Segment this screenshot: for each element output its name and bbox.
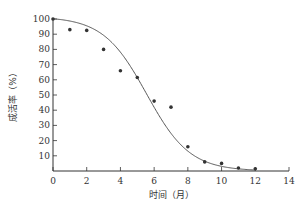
y-tick-label: 60 (39, 75, 51, 85)
x-axis-title: 时间（月） (149, 189, 194, 200)
y-tick-label: 50 (39, 90, 51, 100)
data-point (237, 166, 241, 170)
data-points (51, 17, 257, 170)
data-point (220, 162, 224, 166)
data-point (152, 99, 156, 103)
data-point (135, 76, 139, 80)
x-tick-label: 0 (50, 176, 56, 186)
data-point (186, 145, 190, 149)
x-tick-label: 8 (185, 176, 191, 186)
x-tick-label: 12 (250, 176, 261, 186)
x-tick-label: 2 (84, 176, 90, 186)
survival-rate-chart: 102030405060708090100 02468101214 时间（月） … (0, 0, 308, 205)
data-point (119, 69, 123, 73)
y-tick-label: 100 (33, 14, 50, 24)
y-axis-title: 成活率（%） (7, 68, 18, 122)
data-point (51, 17, 55, 21)
x-tick-label: 10 (216, 176, 228, 186)
data-point (203, 160, 207, 164)
data-point (169, 105, 173, 109)
x-tick-label: 14 (283, 176, 295, 186)
fitted-curve (53, 19, 255, 170)
x-tick-label: 4 (118, 176, 124, 186)
y-tick-label: 80 (39, 44, 51, 54)
y-tick-label: 70 (39, 60, 51, 70)
y-tick-label: 40 (39, 105, 51, 115)
axes (53, 19, 289, 171)
y-tick-label: 30 (39, 120, 51, 130)
y-tick-label: 90 (39, 29, 51, 39)
data-point (253, 167, 257, 171)
data-point (85, 29, 89, 33)
x-axis-ticks: 02468101214 (50, 167, 295, 186)
x-tick-label: 6 (151, 176, 157, 186)
data-point (102, 48, 106, 52)
data-point (68, 28, 72, 32)
y-tick-label: 20 (39, 136, 51, 146)
y-tick-label: 10 (39, 151, 51, 161)
